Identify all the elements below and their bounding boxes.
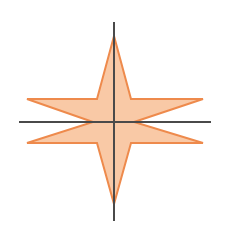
star-diagram — [0, 0, 227, 231]
